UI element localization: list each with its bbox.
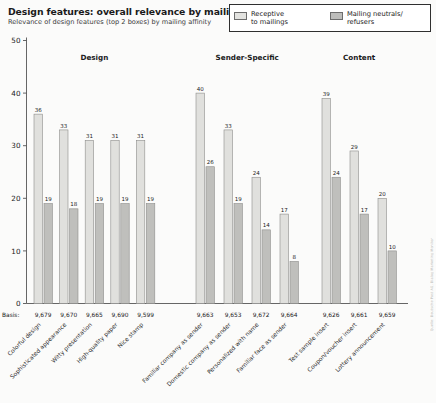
basis-value: 9,653: [225, 312, 242, 318]
basis-value: 9,690: [112, 312, 129, 318]
y-axis-tick-label: 0: [16, 299, 21, 308]
bar-neutrals: [70, 209, 78, 304]
group-header-label: Content: [343, 53, 376, 62]
plot-area: 01020304050 DesignSender-SpecificContent…: [0, 0, 436, 403]
bar-receptive: [378, 198, 386, 303]
group-headers: DesignSender-SpecificContent: [80, 53, 375, 62]
y-axis-tick-label: 40: [11, 89, 21, 98]
category-label: Personalized with name: [206, 321, 260, 375]
group-header-label: Sender-Specific: [216, 53, 279, 62]
category-label: Domestic company as sender: [166, 321, 233, 388]
legend-item-label: Receptive to mailings: [251, 10, 288, 27]
bar-value-label: 24: [333, 170, 340, 176]
source-note: Quelle: Deutsche Post AG, Dialog Marketi…: [430, 238, 435, 331]
bar-value-label: 29: [351, 144, 358, 150]
bar-receptive: [34, 114, 42, 303]
bar-value-label: 19: [235, 196, 242, 202]
bar-value-label: 17: [361, 207, 368, 213]
bar-value-label: 39: [323, 91, 330, 97]
basis-value: 9,679: [35, 312, 52, 318]
category-labels: Colorful designSophisticated appearanceW…: [6, 321, 387, 388]
category-label: Nice stamp: [117, 321, 146, 350]
y-axis-tick-label: 50: [11, 36, 21, 45]
legend-item-label: Mailing neutrals/ refusers: [347, 10, 403, 27]
bar-value-label: 19: [122, 196, 129, 202]
category-label: High-quality paper: [76, 321, 120, 365]
bar-value-label: 10: [389, 244, 396, 250]
chart-legend: Receptive to mailings Mailing neutrals/ …: [229, 4, 431, 32]
chart-axes: 01020304050: [11, 36, 408, 308]
bar-receptive: [136, 140, 144, 303]
bar-neutrals: [388, 251, 396, 304]
bar-neutrals: [121, 204, 129, 304]
bar-neutrals: [262, 230, 270, 304]
legend-item-receptive: Receptive to mailings: [234, 10, 330, 27]
category-label: Familiar face as sender: [235, 321, 288, 374]
bar-series: 3619331831193119311940263319241417839242…: [34, 86, 396, 304]
basis-value: 9,599: [137, 312, 154, 318]
bar-receptive: [322, 98, 330, 303]
bar-neutrals: [234, 204, 242, 304]
legend-item-neutrals: Mailing neutrals/ refusers: [330, 10, 403, 27]
bar-neutrals: [44, 204, 52, 304]
legend-swatch-icon: [330, 12, 343, 20]
bar-neutrals: [206, 167, 214, 304]
bar-receptive: [85, 140, 93, 303]
basis-value: 9,626: [323, 312, 340, 318]
group-header-label: Design: [80, 53, 108, 62]
category-label: Sophisticated appearance: [9, 321, 69, 381]
bar-value-label: 24: [253, 170, 260, 176]
basis-value: 9,664: [281, 312, 298, 318]
basis-value: 9,661: [351, 312, 368, 318]
bar-value-label: 20: [379, 191, 386, 197]
bar-value-label: 19: [147, 196, 154, 202]
bar-receptive: [252, 177, 260, 303]
bar-receptive: [350, 151, 358, 304]
bar-receptive: [280, 214, 288, 303]
bar-value-label: 17: [281, 207, 288, 213]
bar-value-label: 31: [112, 133, 119, 139]
y-axis-tick-label: 30: [11, 141, 21, 150]
basis-value: 9,663: [197, 312, 214, 318]
bar-value-label: 33: [60, 123, 67, 129]
basis-value: 9,670: [60, 312, 77, 318]
bar-receptive: [60, 130, 68, 304]
category-label: Lottery announcement: [334, 321, 387, 374]
category-label: Test sample insert: [287, 321, 331, 365]
category-label: Witty presentation: [50, 321, 94, 365]
basis-value: 9,659: [379, 312, 396, 318]
bar-neutrals: [360, 214, 368, 303]
bar-value-label: 36: [35, 107, 42, 113]
y-axis-tick-label: 10: [11, 247, 21, 256]
bar-value-label: 19: [45, 196, 52, 202]
bar-neutrals: [146, 204, 154, 304]
bar-neutrals: [332, 177, 340, 303]
bar-value-label: 40: [197, 86, 204, 92]
y-axis-tick-label: 20: [11, 194, 21, 203]
legend-swatch-icon: [234, 12, 247, 20]
bar-value-label: 14: [263, 222, 270, 228]
bar-receptive: [224, 130, 232, 304]
bar-neutrals: [95, 204, 103, 304]
basis-caption: Basis:: [2, 312, 19, 318]
bar-value-label: 8: [292, 254, 296, 260]
category-label: Colorful design: [6, 321, 42, 357]
basis-value: 9,672: [253, 312, 270, 318]
category-label: Familiar company as sender: [141, 321, 205, 385]
bar-value-label: 33: [225, 123, 232, 129]
bar-receptive: [196, 93, 204, 303]
chart-container: Design features: overall relevance by ma…: [0, 0, 436, 403]
basis-value: 9,665: [86, 312, 103, 318]
bar-chart-svg: 01020304050 DesignSender-SpecificContent…: [0, 0, 436, 403]
category-label: Coupon/voucher insert: [306, 321, 359, 374]
bar-value-label: 31: [137, 133, 144, 139]
bar-value-label: 19: [96, 196, 103, 202]
bar-value-label: 18: [70, 201, 77, 207]
bar-receptive: [111, 140, 119, 303]
basis-row: 9,6799,6709,6659,6909,5999,6639,6539,672…: [2, 312, 396, 318]
bar-value-label: 31: [86, 133, 93, 139]
bar-value-label: 26: [207, 159, 214, 165]
bar-neutrals: [290, 261, 298, 303]
